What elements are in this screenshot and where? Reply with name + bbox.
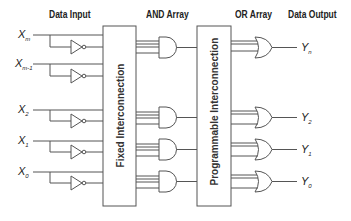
or-gate-0 — [231, 171, 297, 192]
and-gate-3 — [136, 139, 197, 160]
input-buffer-x0 — [33, 172, 103, 190]
programmable-interconnection-label: Programmable Interconnection — [209, 46, 220, 186]
input-buffer-x2 — [33, 110, 103, 128]
input-buffer-xm1 — [33, 64, 103, 83]
input-buffer-xm — [33, 35, 103, 54]
or-gate-2 — [231, 107, 297, 128]
output-label-y0: Y0 — [301, 175, 312, 189]
and-gate-1 — [136, 37, 197, 58]
input-label-x1: X1 — [18, 134, 29, 148]
and-gate-4 — [136, 171, 197, 192]
or-gate-1 — [231, 139, 297, 160]
header-or-array: OR Array — [235, 9, 272, 20]
header-and-array: AND Array — [146, 9, 189, 20]
header-data-output: Data Output — [288, 9, 337, 20]
fixed-interconnection-label: Fixed Interconnection — [115, 56, 126, 176]
input-label-xm: Xm — [18, 28, 30, 42]
input-label-xm1: Xm-1 — [15, 57, 33, 71]
and-gate-2 — [136, 107, 197, 128]
input-label-x0: X0 — [18, 165, 29, 179]
output-label-y2: Y2 — [301, 111, 312, 125]
or-gate-n — [231, 37, 297, 58]
output-label-yn: Yn — [301, 41, 312, 55]
header-data-input: Data Input — [49, 9, 91, 20]
input-label-x2: X2 — [18, 103, 29, 117]
pla-diagram — [0, 0, 351, 221]
output-label-y1: Y1 — [301, 143, 312, 157]
input-buffer-x1 — [33, 141, 103, 159]
